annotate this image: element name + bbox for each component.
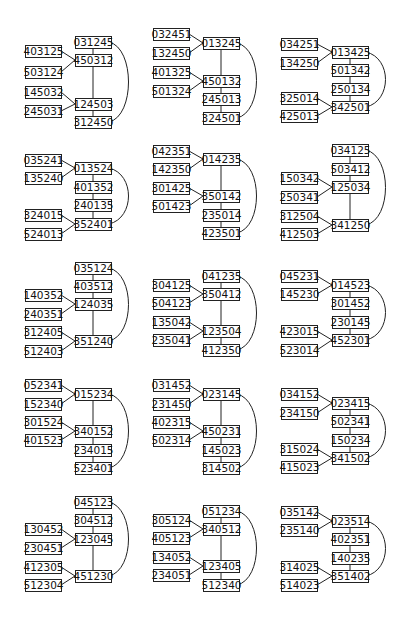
leaf-node: 142350 bbox=[151, 163, 191, 176]
spine-node: 350412 bbox=[201, 288, 241, 301]
node-label: 403512 bbox=[73, 280, 113, 292]
panel-nodes: 0312454503121245033124504031255031241450… bbox=[23, 36, 113, 129]
spine-node: 041235 bbox=[201, 270, 241, 283]
spine-node: 140235 bbox=[330, 552, 370, 565]
node-label: 034152 bbox=[279, 388, 319, 400]
spine-node: 403512 bbox=[73, 280, 113, 293]
node-label: 512340 bbox=[201, 579, 241, 591]
spine-node: 340152 bbox=[73, 425, 113, 438]
node-label: 250341 bbox=[279, 191, 319, 203]
node-label: 501342 bbox=[330, 64, 370, 76]
leaf-node: 314025 bbox=[279, 561, 319, 574]
leaf-node: 031452 bbox=[151, 379, 191, 392]
spine-node: 014235 bbox=[201, 153, 241, 166]
node-label: 312504 bbox=[279, 210, 319, 222]
node-label: 501324 bbox=[151, 85, 191, 97]
node-label: 304512 bbox=[73, 514, 113, 526]
leaf-node: 301425 bbox=[151, 182, 191, 195]
spine-node: 412350 bbox=[201, 344, 241, 357]
spine-node: 045123 bbox=[73, 496, 113, 509]
node-label: 245031 bbox=[23, 105, 63, 117]
node-label: 235140 bbox=[279, 524, 319, 536]
node-label: 402351 bbox=[330, 533, 370, 545]
node-label: 324501 bbox=[201, 112, 241, 124]
node-label: 425013 bbox=[279, 110, 319, 122]
node-label: 514023 bbox=[279, 579, 319, 591]
spine-node: 013524 bbox=[73, 162, 113, 175]
node-label: 042351 bbox=[151, 145, 191, 157]
node-label: 415023 bbox=[279, 461, 319, 473]
leaf-node: 235140 bbox=[279, 524, 319, 537]
node-label: 512403 bbox=[23, 345, 63, 357]
leaf-node: 304125 bbox=[151, 279, 191, 292]
node-label: 452301 bbox=[330, 334, 370, 346]
node-label: 014523 bbox=[330, 279, 370, 291]
arc-edge bbox=[366, 521, 386, 576]
node-label: 312405 bbox=[23, 326, 63, 338]
panel-6: 0341255034121250343412501503422503413125… bbox=[279, 144, 385, 241]
spine-node: 123045 bbox=[73, 533, 113, 546]
leaf-node: 412503 bbox=[279, 228, 319, 241]
node-label: 234150 bbox=[279, 407, 319, 419]
leaf-node: 032451 bbox=[151, 28, 191, 41]
node-label: 150342 bbox=[279, 172, 319, 184]
node-label: 450231 bbox=[201, 425, 241, 437]
panel-2: 0132454501322450133245010324511324504013… bbox=[151, 28, 256, 125]
node-label: 324015 bbox=[23, 209, 63, 221]
spine-node: 352401 bbox=[73, 218, 113, 231]
panel-5: 0142353501422350144235010423511423503014… bbox=[151, 145, 256, 240]
leaf-node: 402315 bbox=[151, 416, 191, 429]
panel-4: 0135244013522401353524010352411352403240… bbox=[23, 154, 128, 241]
leaf-node: 412305 bbox=[23, 561, 63, 574]
leaf-node: 150342 bbox=[279, 172, 319, 185]
spine-node: 351240 bbox=[73, 335, 113, 348]
node-label: 503412 bbox=[330, 163, 370, 175]
arc-edge bbox=[109, 168, 129, 224]
spine-node: 125034 bbox=[330, 181, 370, 194]
node-label: 412350 bbox=[201, 344, 241, 356]
node-label: 152340 bbox=[23, 398, 63, 410]
node-label: 523014 bbox=[279, 344, 319, 356]
spine-node: 230145 bbox=[330, 316, 370, 329]
leaf-node: 501423 bbox=[151, 200, 191, 213]
spine-node: 240135 bbox=[73, 199, 113, 212]
node-label: 341502 bbox=[330, 452, 370, 464]
node-label: 403125 bbox=[23, 45, 63, 57]
leaf-node: 524013 bbox=[23, 228, 63, 241]
leaf-node: 301524 bbox=[23, 416, 63, 429]
node-label: 150234 bbox=[330, 434, 370, 446]
node-label: 123504 bbox=[201, 325, 241, 337]
leaf-node: 045231 bbox=[279, 270, 319, 283]
panel-9: 0145233014522301454523010452311452304230… bbox=[279, 270, 385, 357]
spine-node: 350142 bbox=[201, 190, 241, 203]
panel-7: 0351244035121240353512401403522403513124… bbox=[23, 262, 128, 358]
panel-nodes: 0234155023411502343415020341522341503150… bbox=[279, 388, 370, 474]
node-label: 234015 bbox=[73, 444, 113, 456]
node-label: 230451 bbox=[23, 542, 63, 554]
leaf-node: 140352 bbox=[23, 289, 63, 302]
leaf-node: 231450 bbox=[151, 398, 191, 411]
node-label: 325014 bbox=[279, 92, 319, 104]
spine-node: 023145 bbox=[201, 388, 241, 401]
leaf-node: 325014 bbox=[279, 92, 319, 105]
leaf-node: 134052 bbox=[151, 551, 191, 564]
leaf-node: 425013 bbox=[279, 110, 319, 123]
node-label: 031452 bbox=[151, 379, 191, 391]
spine-node: 301452 bbox=[330, 297, 370, 310]
leaf-node: 324015 bbox=[23, 209, 63, 222]
spine-node: 250134 bbox=[330, 83, 370, 96]
leaf-node: 401325 bbox=[151, 66, 191, 79]
node-label: 032451 bbox=[151, 28, 191, 40]
node-label: 135042 bbox=[151, 316, 191, 328]
node-label: 023415 bbox=[330, 397, 370, 409]
node-label: 412503 bbox=[279, 228, 319, 240]
node-label: 135240 bbox=[23, 172, 63, 184]
leaf-node: 230451 bbox=[23, 542, 63, 555]
node-label: 351240 bbox=[73, 335, 113, 347]
node-label: 301452 bbox=[330, 297, 370, 309]
leaf-node: 502314 bbox=[151, 434, 191, 447]
node-label: 401352 bbox=[73, 181, 113, 193]
node-label: 502341 bbox=[330, 415, 370, 427]
node-label: 130452 bbox=[23, 523, 63, 535]
leaf-node: 504123 bbox=[151, 297, 191, 310]
